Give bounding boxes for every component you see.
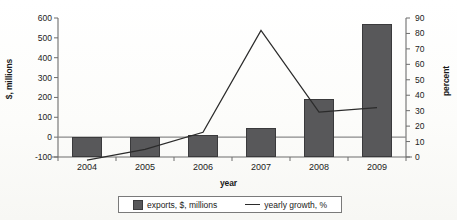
- x-tick-2004: 2004: [62, 162, 112, 172]
- left-tick-100: 100: [18, 112, 52, 122]
- right-tick-50: 50: [415, 75, 439, 85]
- legend-label-yearly-growth: yearly growth, %: [264, 200, 327, 210]
- right-tick-60: 60: [415, 59, 439, 69]
- bar-line-combo-chart: $, millions percent year 600500400300200…: [0, 0, 457, 220]
- right-tick-20: 20: [415, 121, 439, 131]
- x-tick-2009: 2009: [352, 162, 402, 172]
- left-tick-500: 500: [18, 33, 52, 43]
- line-series-yearly-growth: [58, 18, 406, 157]
- left-tick-600: 600: [18, 13, 52, 23]
- x-tick-2006: 2006: [178, 162, 228, 172]
- right-tick-0: 0: [415, 152, 439, 162]
- right-tick-40: 40: [415, 90, 439, 100]
- left-tick--100: -100: [18, 152, 52, 162]
- left-axis-title: $, millions: [4, 49, 14, 109]
- right-tick-70: 70: [415, 44, 439, 54]
- left-tick-300: 300: [18, 73, 52, 83]
- legend-swatch-icon: [133, 200, 143, 210]
- right-tick-10: 10: [415, 137, 439, 147]
- x-axis-title: year: [0, 178, 457, 188]
- left-tick-0: 0: [18, 132, 52, 142]
- legend-item-yearly-growth: yearly growth, %: [245, 200, 327, 210]
- growth-line-path: [87, 30, 377, 160]
- chart-legend: exports, $, millions yearly growth, %: [118, 196, 342, 213]
- left-tick-400: 400: [18, 53, 52, 63]
- x-tick-2007: 2007: [236, 162, 286, 172]
- right-axis-title: percent: [441, 51, 451, 111]
- right-tick-80: 80: [415, 28, 439, 38]
- right-tick-30: 30: [415, 106, 439, 116]
- right-tick-90: 90: [415, 13, 439, 23]
- legend-line-icon: [245, 204, 260, 205]
- x-tick-2008: 2008: [294, 162, 344, 172]
- legend-item-exports: exports, $, millions: [133, 200, 217, 210]
- left-tick-200: 200: [18, 92, 52, 102]
- legend-label-exports: exports, $, millions: [147, 200, 217, 210]
- x-tick-2005: 2005: [120, 162, 170, 172]
- plot-area: [58, 18, 406, 157]
